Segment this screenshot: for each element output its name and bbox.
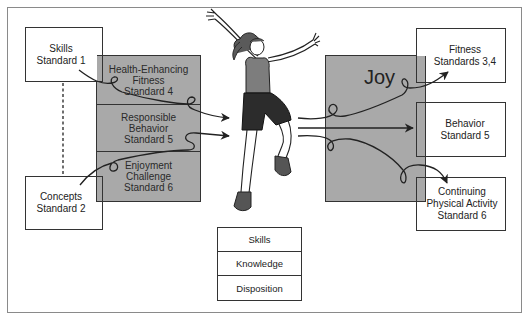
behavior-standard-box: Behavior Standard 5 <box>416 102 506 157</box>
attributes-stack: Skills Knowledge Disposition <box>217 227 302 301</box>
attribute-knowledge: Knowledge <box>218 252 301 276</box>
joy-label: Joy <box>364 66 395 89</box>
continuing-activity-box: Continuing Physical Activity Standard 6 <box>416 177 506 231</box>
skills-standard-box: Skills Standard 1 <box>25 27 103 82</box>
health-enhancing-fitness-segment: Health-Enhancing Fitness Standard 4 <box>97 56 200 105</box>
concepts-standard-box: Concepts Standard 2 <box>25 176 103 230</box>
joy-box: Joy <box>325 55 426 202</box>
attribute-disposition: Disposition <box>218 276 301 300</box>
enjoyment-challenge-segment: Enjoyment Challenge Standard 6 <box>97 152 200 201</box>
responsible-behavior-segment: Responsible Behavior Standard 5 <box>97 105 200 152</box>
attribute-skills: Skills <box>218 228 301 252</box>
fitness-standards-box: Fitness Standards 3,4 <box>416 28 506 83</box>
left-standards-box: Health-Enhancing Fitness Standard 4 Resp… <box>96 55 201 202</box>
